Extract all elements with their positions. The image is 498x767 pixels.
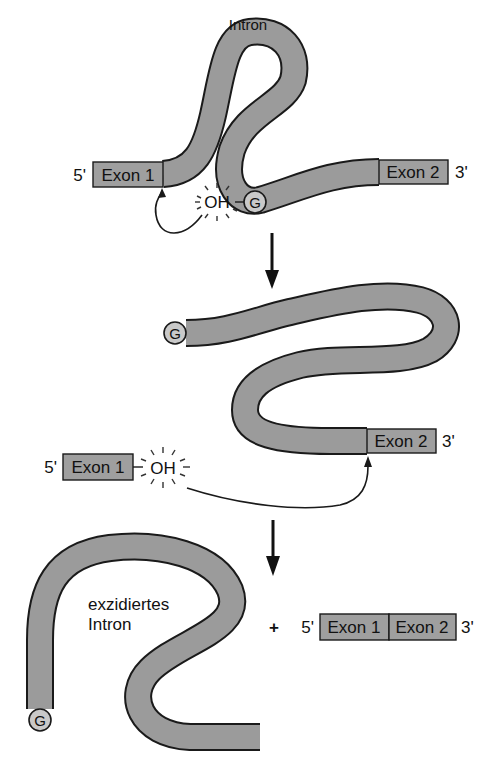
- excised-intron-label-line1: exzidiertes: [88, 595, 169, 614]
- exon2-label-2: Exon 2: [375, 432, 428, 451]
- exon1-label: Exon 1: [102, 166, 155, 185]
- step-arrow-1: [265, 233, 279, 289]
- oh-label-2: OH: [150, 459, 176, 478]
- step1-precursor: Intron 5' Exon 1 Exon 2 3' OH G: [73, 16, 467, 233]
- attack-arrow-1: [155, 192, 202, 233]
- oh-label: OH: [204, 193, 230, 212]
- plus-sign: +: [269, 618, 279, 637]
- g-label-3: G: [34, 712, 46, 729]
- step-arrow-2: [266, 520, 280, 576]
- g-label-2: G: [169, 325, 181, 342]
- step2-intermediate: G Exon 2 3' 5' Exon 1 OH: [44, 296, 454, 507]
- exon1-label-3: Exon 1: [328, 618, 381, 637]
- g-label: G: [249, 194, 261, 211]
- step3-products: G exzidiertes Intron + 5' Exon 1 Exon 2 …: [29, 547, 474, 737]
- exon1-label-2: Exon 1: [72, 458, 125, 477]
- three-prime-label: 3': [455, 163, 468, 182]
- splicing-diagram: Intron 5' Exon 1 Exon 2 3' OH G: [0, 0, 498, 767]
- three-prime-label-2: 3': [442, 432, 455, 451]
- attack-arrow-2: [187, 466, 368, 508]
- intron-label: Intron: [229, 16, 267, 33]
- five-prime-label-2: 5': [44, 458, 57, 477]
- five-prime-label: 5': [73, 166, 86, 185]
- three-prime-label-3: 3': [461, 618, 474, 637]
- exon2-label-3: Exon 2: [396, 618, 449, 637]
- excised-intron-label-line2: Intron: [88, 615, 131, 634]
- five-prime-label-3: 5': [301, 618, 314, 637]
- exon2-label: Exon 2: [387, 163, 440, 182]
